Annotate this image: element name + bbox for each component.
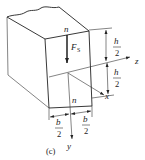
x-axis [68, 73, 104, 95]
svg-text:b: b [83, 114, 88, 124]
svg-text:2: 2 [115, 48, 119, 58]
force-label: F [70, 42, 77, 52]
svg-text:2: 2 [84, 126, 88, 136]
force-subscript: S [77, 47, 80, 53]
front-face [45, 31, 92, 108]
y-axis [68, 73, 72, 139]
z-axis-label: z [134, 56, 139, 66]
caption: (c) [46, 146, 56, 156]
y-axis-label: y [66, 141, 71, 151]
beam-section-diagram: z x y n F S n h 2 h 2 b 2 b 2 (c) [0, 0, 145, 160]
break-line [7, 7, 59, 17]
svg-text:h: h [114, 36, 119, 46]
section-label-top: n [64, 24, 69, 34]
beam-body [7, 7, 92, 108]
section-label-bottom: n [72, 95, 77, 105]
svg-text:b: b [56, 117, 61, 127]
svg-text:2: 2 [115, 79, 119, 89]
svg-text:2: 2 [57, 129, 61, 139]
svg-text:h: h [114, 67, 119, 77]
